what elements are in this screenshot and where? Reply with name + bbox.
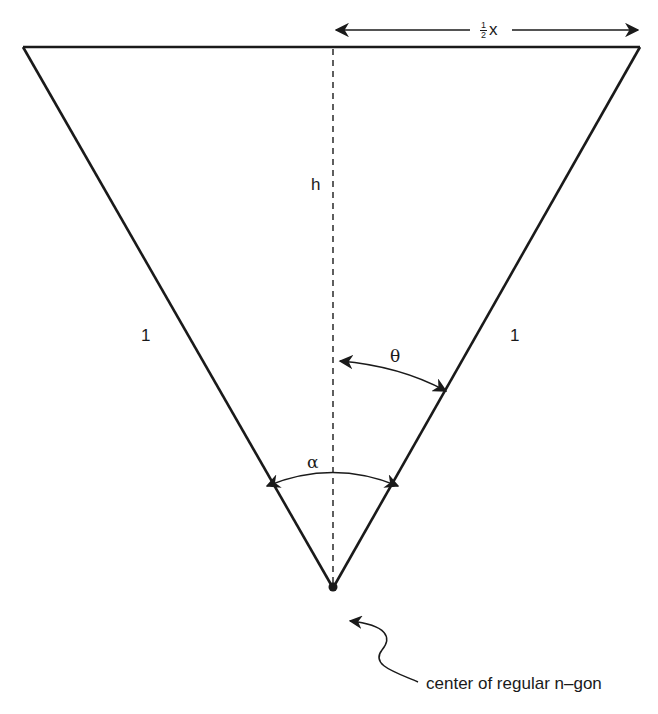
height-label: h bbox=[311, 176, 320, 193]
right-side-label: 1 bbox=[510, 327, 519, 344]
fraction-denominator: 2 bbox=[480, 31, 487, 40]
left-side-label: 1 bbox=[141, 327, 150, 344]
center-pointer-arrow bbox=[350, 621, 418, 682]
triangle-right-side bbox=[333, 47, 640, 588]
alpha-label: α bbox=[307, 454, 318, 471]
center-point bbox=[329, 583, 338, 592]
center-annotation: center of regular n–gon bbox=[426, 675, 602, 692]
theta-label: θ bbox=[390, 348, 400, 365]
half-x-label: 1 2 x bbox=[480, 21, 498, 40]
half-x-variable: x bbox=[489, 20, 498, 39]
half-fraction: 1 2 bbox=[480, 21, 487, 40]
triangle-diagram bbox=[0, 0, 658, 714]
triangle-left-side bbox=[23, 47, 333, 588]
